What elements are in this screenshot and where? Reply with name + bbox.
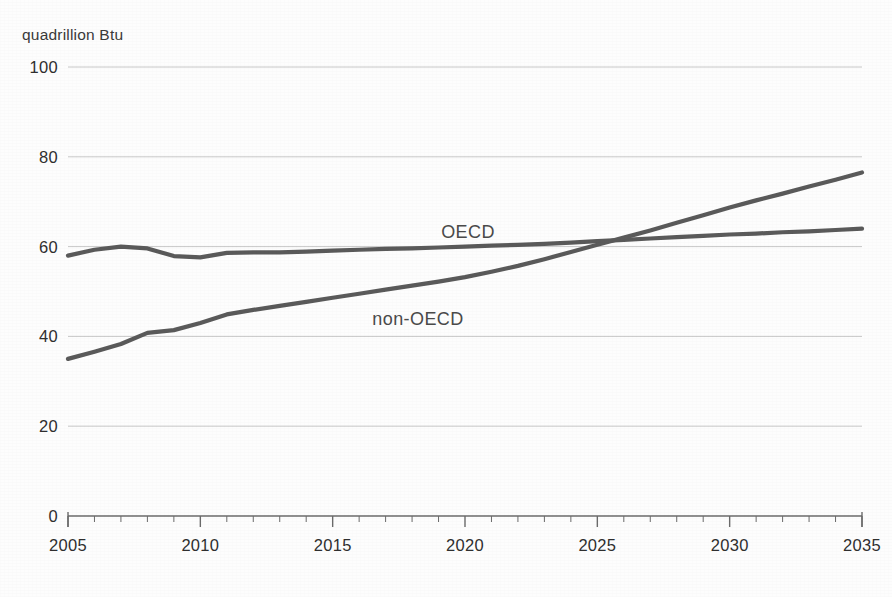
axis-lines-and-ticks	[0, 0, 892, 597]
chart-container: quadrillion Btu 020406080100 20052010201…	[0, 0, 892, 597]
